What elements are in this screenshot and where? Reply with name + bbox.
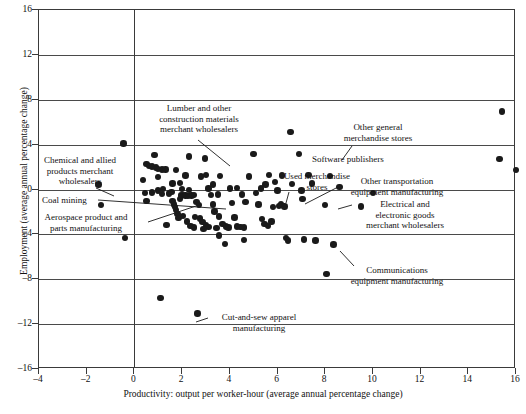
- y-tick: [32, 99, 38, 100]
- x-tick-label: 16: [510, 374, 520, 384]
- annotation-other-general: Other general merchandise stores: [328, 122, 428, 143]
- data-point: [513, 167, 519, 173]
- gridline-y--4: [39, 234, 514, 235]
- annotation-coal: Coal mining: [42, 195, 112, 206]
- data-point: [196, 202, 202, 208]
- data-point: [163, 222, 169, 228]
- data-point: [330, 241, 336, 247]
- y-tick-label: 4: [27, 139, 32, 149]
- data-point: [285, 237, 291, 243]
- data-point: [213, 225, 219, 231]
- data-point: [227, 185, 233, 191]
- x-tick-label: 0: [131, 374, 136, 384]
- scatter-chart: Employment (average annual percentage ch…: [0, 0, 526, 414]
- data-point: [157, 295, 163, 301]
- data-point: [162, 166, 168, 172]
- data-point: [242, 199, 248, 205]
- data-point: [239, 191, 245, 197]
- data-point: [499, 108, 505, 114]
- data-point: [246, 173, 252, 179]
- x-tick-label: 14: [463, 374, 473, 384]
- data-point: [301, 236, 307, 242]
- data-point: [202, 155, 208, 161]
- annotation-lumber: Lumber and other construction materials …: [140, 103, 258, 135]
- data-point: [268, 218, 274, 224]
- data-point: [241, 237, 247, 243]
- annotation-electrical: Electrical and electronic goods merchant…: [350, 199, 460, 231]
- gridline-x-zero: [134, 10, 135, 367]
- x-tick-label: 10: [367, 374, 377, 384]
- x-tick-label: 8: [322, 374, 327, 384]
- data-point: [250, 151, 256, 157]
- data-point: [299, 196, 305, 202]
- y-tick-label: –8: [23, 273, 33, 283]
- data-point: [194, 310, 200, 316]
- data-point: [179, 186, 185, 192]
- data-point: [203, 172, 209, 178]
- x-tick-label: 2: [179, 374, 184, 384]
- data-point: [210, 181, 216, 187]
- x-tick-label: 12: [415, 374, 425, 384]
- data-point: [217, 173, 223, 179]
- x-tick-label: –4: [33, 374, 43, 384]
- annotation-cutandsew: Cut-and-sew apparel manufacturing: [204, 312, 314, 333]
- data-point: [122, 235, 128, 241]
- y-tick-label: 16: [23, 4, 33, 14]
- y-tick: [32, 54, 38, 55]
- y-tick: [32, 144, 38, 145]
- data-point: [287, 129, 293, 135]
- data-point: [215, 191, 221, 197]
- data-point: [173, 167, 179, 173]
- data-point: [120, 140, 126, 146]
- data-point: [296, 151, 302, 157]
- data-point: [142, 190, 148, 196]
- annotation-aerospace: Aerospace product and parts manufacturin…: [26, 212, 146, 233]
- data-point: [200, 226, 206, 232]
- data-point: [323, 271, 329, 277]
- data-point: [169, 180, 175, 186]
- y-tick-label: –16: [18, 363, 32, 373]
- data-point: [231, 214, 237, 220]
- y-tick: [32, 9, 38, 10]
- data-point: [151, 152, 157, 158]
- y-tick-label: –12: [18, 318, 32, 328]
- data-point: [168, 189, 174, 195]
- data-point: [281, 203, 287, 209]
- data-point: [182, 172, 188, 178]
- gridline-y-8: [39, 100, 514, 101]
- data-point: [191, 224, 197, 230]
- data-point: [276, 203, 282, 209]
- y-tick: [32, 189, 38, 190]
- data-point: [140, 177, 146, 183]
- y-axis-title: Employment (average annual percentage ch…: [19, 71, 29, 291]
- data-point: [225, 224, 231, 230]
- data-point: [322, 202, 328, 208]
- data-point: [258, 185, 264, 191]
- y-tick: [32, 233, 38, 234]
- y-tick: [32, 323, 38, 324]
- data-point: [191, 192, 197, 198]
- data-point: [216, 213, 222, 219]
- data-point: [229, 200, 235, 206]
- data-point: [143, 198, 149, 204]
- annotation-communications: Communications equipment manufacturing: [336, 265, 458, 286]
- data-point: [155, 174, 161, 180]
- data-point: [210, 201, 216, 207]
- data-point: [222, 241, 228, 247]
- annotation-software: Software publishers: [312, 154, 408, 165]
- data-point: [208, 192, 214, 198]
- data-point: [241, 224, 247, 230]
- data-point: [216, 232, 222, 238]
- annotation-other-transport: Other transportation equipment manufactu…: [336, 176, 458, 197]
- gridline-y-4: [39, 145, 514, 146]
- data-point: [186, 153, 192, 159]
- y-tick-label: 8: [27, 94, 32, 104]
- x-tick-label: –2: [81, 374, 91, 384]
- data-point: [312, 237, 318, 243]
- y-tick-label: 12: [23, 49, 33, 59]
- x-tick-label: 4: [226, 374, 231, 384]
- gridline-y-12: [39, 55, 514, 56]
- annotation-chemical: Chemical and allied products merchant wh…: [30, 155, 130, 187]
- y-tick: [32, 368, 38, 369]
- data-point: [234, 185, 240, 191]
